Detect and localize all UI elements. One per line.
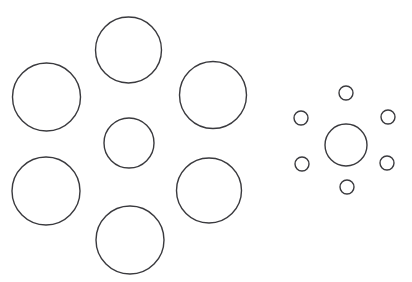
right-inducer-ring <box>294 86 395 194</box>
left-inducer-lower-right-circle <box>177 158 242 223</box>
right-inducer-lower-right-circle <box>380 156 394 170</box>
left-inducer-bottom-circle <box>96 206 164 274</box>
right-inducer-lower-left-circle <box>295 157 309 171</box>
right-inducer-upper-right-circle <box>381 110 395 124</box>
right-target-center-circle <box>325 124 367 166</box>
left-group <box>12 17 247 274</box>
illusion-figure-canvas <box>0 0 412 282</box>
right-target-group <box>325 124 367 166</box>
left-inducer-upper-left-circle <box>13 63 81 131</box>
left-inducer-top-circle <box>96 17 162 83</box>
left-inducer-upper-right-circle <box>180 62 247 129</box>
circles-svg <box>0 0 412 282</box>
left-target-center-circle <box>104 118 154 168</box>
right-inducer-bottom-circle <box>340 180 354 194</box>
left-inducer-ring <box>12 17 247 274</box>
left-inducer-lower-left-circle <box>12 157 80 225</box>
left-target-group <box>104 118 154 168</box>
right-inducer-top-circle <box>339 86 353 100</box>
right-group <box>294 86 395 194</box>
right-inducer-upper-left-circle <box>294 111 308 125</box>
